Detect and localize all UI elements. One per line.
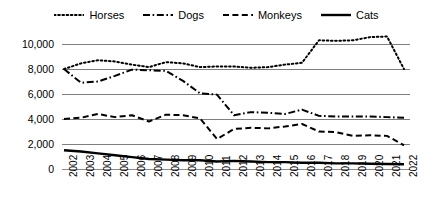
x-axis-tick: 2017 — [323, 155, 334, 177]
chart-legend: HorsesDogsMonkeysCats — [0, 4, 433, 26]
x-axis-tick: 2021 — [391, 155, 402, 177]
x-axis-tick: 2012 — [238, 155, 249, 177]
x-axis-tick: 2002 — [68, 155, 79, 177]
y-axis-tick: 0 — [48, 163, 54, 175]
y-axis-tick: 10,000 — [22, 38, 54, 50]
x-axis-labels: 2002200320042005200620072008200920102011… — [62, 174, 410, 221]
series-line-horses — [64, 37, 404, 70]
x-axis-tick: 2016 — [306, 155, 317, 177]
legend-label: Cats — [356, 10, 379, 21]
legend-item-dogs[interactable]: Dogs — [143, 10, 204, 21]
plot-area — [62, 26, 410, 176]
legend-item-cats[interactable]: Cats — [321, 10, 379, 21]
y-axis-tick: 6,000 — [28, 88, 54, 100]
x-axis-tick: 2018 — [340, 155, 351, 177]
chart-svg — [62, 26, 410, 176]
x-axis-tick: 2010 — [204, 155, 215, 177]
x-axis-tick: 2005 — [119, 155, 130, 177]
y-axis-tick: 2,000 — [28, 138, 54, 150]
x-axis-tick: 2003 — [85, 155, 96, 177]
x-axis-tick: 2013 — [255, 155, 266, 177]
legend-line-dashed — [223, 10, 253, 20]
legend-label: Horses — [89, 10, 124, 21]
y-axis-labels: 10,0008,0006,0004,0002,0000 — [0, 26, 60, 176]
x-axis-tick: 2011 — [221, 155, 232, 177]
legend-line-dotted — [54, 10, 84, 20]
x-axis-tick: 2009 — [187, 155, 198, 177]
legend-line-dashdot — [143, 10, 173, 20]
x-axis-tick: 2006 — [136, 155, 147, 177]
series-line-cats — [64, 150, 404, 164]
x-axis-tick: 2020 — [374, 155, 385, 177]
x-axis-tick: 2014 — [272, 155, 283, 177]
y-axis-tick: 8,000 — [28, 63, 54, 75]
x-axis-tick: 2022 — [408, 155, 419, 177]
legend-item-horses[interactable]: Horses — [54, 10, 124, 21]
y-axis-tick: 4,000 — [28, 113, 54, 125]
x-axis-tick: 2007 — [153, 155, 164, 177]
x-axis-tick: 2015 — [289, 155, 300, 177]
legend-label: Dogs — [178, 10, 204, 21]
x-axis-tick: 2004 — [102, 155, 113, 177]
series-line-dogs — [64, 69, 404, 118]
legend-item-monkeys[interactable]: Monkeys — [223, 10, 302, 21]
plot-wrapper: 10,0008,0006,0004,0002,0000 200220032004… — [0, 26, 433, 221]
chart-container: HorsesDogsMonkeysCats 10,0008,0006,0004,… — [0, 0, 433, 221]
legend-label: Monkeys — [258, 10, 302, 21]
legend-line-solid — [321, 10, 351, 20]
x-axis-tick: 2019 — [357, 155, 368, 177]
x-axis-tick: 2008 — [170, 155, 181, 177]
